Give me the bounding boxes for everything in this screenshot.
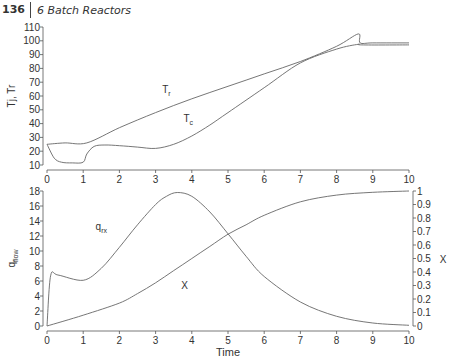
x-tick-label: 1 bbox=[80, 335, 86, 346]
x-axis-label: Time bbox=[216, 346, 240, 358]
y-tick-label: 8 bbox=[34, 261, 40, 272]
y-tick-label: 4 bbox=[34, 291, 40, 302]
x-tick-label: 4 bbox=[189, 335, 195, 346]
y-right-tick-label: 0.1 bbox=[417, 307, 431, 318]
x-tick-label: 2 bbox=[117, 174, 123, 185]
series-annotation: Tc bbox=[183, 113, 193, 126]
x-tick-label: 10 bbox=[403, 174, 415, 185]
y-tick-label: 18 bbox=[29, 186, 41, 197]
y-axis-label: Tj, Tr bbox=[6, 84, 17, 107]
y-right-axis-label: X bbox=[440, 254, 447, 265]
y-tick-label: 80 bbox=[29, 63, 41, 74]
y-tick-label: 6 bbox=[34, 276, 40, 287]
y-right-tick-label: 0.6 bbox=[417, 240, 431, 251]
y-tick-label: 0 bbox=[34, 321, 40, 332]
y-right-tick-label: 0.5 bbox=[417, 253, 431, 264]
y-tick-label: 20 bbox=[29, 146, 41, 157]
figure: 102030405060708090100110012345678910Tj, … bbox=[0, 0, 451, 358]
y-tick-label: 12 bbox=[29, 231, 41, 242]
y-right-tick-label: 0.2 bbox=[417, 294, 431, 305]
x-tick-label: 6 bbox=[261, 335, 267, 346]
y-tick-label: 70 bbox=[29, 77, 41, 88]
x-tick-label: 7 bbox=[298, 174, 304, 185]
series-line-tr bbox=[47, 34, 409, 144]
heat-conversion-chart: 02468101214161801234567891000.10.20.30.4… bbox=[6, 186, 447, 358]
y-tick-label: 90 bbox=[29, 49, 41, 60]
y-tick-label: 50 bbox=[29, 104, 41, 115]
x-tick-label: 8 bbox=[334, 335, 340, 346]
x-tick-label: 6 bbox=[261, 174, 267, 185]
y-tick-label: 10 bbox=[29, 160, 41, 171]
y-tick-label: 40 bbox=[29, 118, 41, 129]
x-tick-label: 7 bbox=[298, 335, 304, 346]
y-tick-label: 14 bbox=[29, 216, 41, 227]
y-right-tick-label: 1 bbox=[417, 186, 423, 197]
y-tick-label: 16 bbox=[29, 201, 41, 212]
temperature-chart: 102030405060708090100110012345678910Tj, … bbox=[6, 22, 415, 186]
series-line-tc bbox=[47, 44, 409, 163]
series-annotation: qrx bbox=[96, 221, 108, 234]
y-tick-label: 100 bbox=[23, 35, 40, 46]
x-tick-label: 3 bbox=[153, 335, 159, 346]
y-right-tick-label: 0.4 bbox=[417, 267, 431, 278]
series-annotation: Tr bbox=[162, 84, 171, 97]
x-tick-label: 3 bbox=[153, 174, 159, 185]
y-right-tick-label: 0 bbox=[417, 321, 423, 332]
y-axis-label: qflow bbox=[6, 249, 19, 268]
x-tick-label: 9 bbox=[370, 174, 376, 185]
x-tick-label: 9 bbox=[370, 335, 376, 346]
x-tick-label: 5 bbox=[225, 174, 231, 185]
y-tick-label: 110 bbox=[24, 22, 40, 33]
x-tick-label: 10 bbox=[403, 335, 415, 346]
y-tick-label: 2 bbox=[34, 306, 40, 317]
y-right-tick-label: 0.8 bbox=[417, 213, 431, 224]
series-annotation: X bbox=[181, 280, 188, 291]
x-tick-label: 1 bbox=[80, 174, 86, 185]
y-tick-label: 10 bbox=[29, 246, 41, 257]
x-tick-label: 5 bbox=[225, 335, 231, 346]
x-tick-label: 0 bbox=[44, 335, 50, 346]
x-tick-label: 0 bbox=[44, 174, 50, 185]
series-line-x bbox=[47, 191, 409, 326]
x-tick-label: 4 bbox=[189, 174, 195, 185]
y-right-tick-label: 0.3 bbox=[417, 280, 431, 291]
y-tick-label: 30 bbox=[29, 132, 41, 143]
series-line-qrx bbox=[47, 193, 409, 327]
y-tick-label: 60 bbox=[29, 91, 41, 102]
y-right-tick-label: 0.7 bbox=[417, 226, 431, 237]
y-right-tick-label: 0.9 bbox=[417, 199, 431, 210]
x-tick-label: 2 bbox=[117, 335, 123, 346]
x-tick-label: 8 bbox=[334, 174, 340, 185]
